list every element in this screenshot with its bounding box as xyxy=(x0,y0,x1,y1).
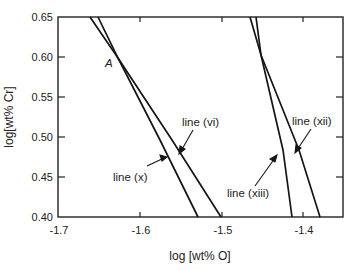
x-axis-title: log [wt% O] xyxy=(169,249,230,263)
phase-diagram-chart: 0.65 0.60 0.55 0.50 0.45 0.40 -1.7 -1.6 … xyxy=(0,0,355,270)
x-tick-label: -1.5 xyxy=(214,224,233,236)
y-tick-label: 0.45 xyxy=(32,171,53,183)
y-tick-label: 0.55 xyxy=(32,91,53,103)
x-tick-label: -1.4 xyxy=(295,224,314,236)
line-x-label: line (x) xyxy=(113,171,148,183)
y-tick-label: 0.60 xyxy=(32,51,53,63)
x-tick-labels: -1.7 -1.6 -1.5 -1.4 xyxy=(50,224,314,236)
y-tick-label: 0.65 xyxy=(32,11,53,23)
x-tick-label: -1.6 xyxy=(132,224,151,236)
line-xii-label: line (xii) xyxy=(292,115,332,127)
y-tick-label: 0.40 xyxy=(32,211,53,223)
x-ticks xyxy=(140,17,303,217)
line-vi-label: line (vi) xyxy=(182,116,219,128)
y-tick-labels: 0.65 0.60 0.55 0.50 0.45 0.40 xyxy=(32,11,53,223)
x-tick-label: -1.7 xyxy=(50,224,69,236)
point-a-label: A xyxy=(104,57,113,69)
line-xiii-label: line (xiii) xyxy=(227,187,269,199)
y-axis-title: log[wt% Cr] xyxy=(2,86,16,147)
y-tick-label: 0.50 xyxy=(32,131,53,143)
